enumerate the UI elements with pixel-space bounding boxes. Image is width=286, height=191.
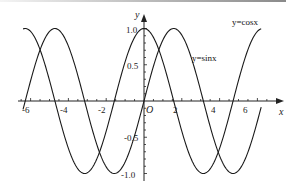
origin-label: O: [146, 104, 153, 115]
chart-canvas: x y O -6 -4 -2 2 4 6 1.0 0.5 -0.5 -1.0 y…: [0, 0, 286, 191]
x-tick-label: -6: [22, 105, 30, 115]
y-axis-arrow-icon: [141, 14, 147, 22]
y-tick-label: -1.0: [121, 170, 136, 180]
y-tick-label: 0.5: [127, 61, 139, 71]
sin-curve-label: y=sinx: [192, 53, 217, 63]
y-tick-label: -0.5: [124, 133, 139, 143]
x-axis-label: x: [278, 106, 284, 117]
x-tick-label: -4: [60, 105, 68, 115]
y-axis-label: y: [134, 9, 140, 20]
x-axis-arrow-icon: [276, 98, 284, 104]
axes: [18, 14, 284, 181]
cos-curve-label: y=cosx: [232, 17, 259, 27]
y-tick-label: 1.0: [126, 25, 138, 35]
x-tick-label: 4: [211, 105, 216, 115]
x-tick-label: -2: [98, 105, 106, 115]
x-tick-label: 6: [243, 105, 248, 115]
